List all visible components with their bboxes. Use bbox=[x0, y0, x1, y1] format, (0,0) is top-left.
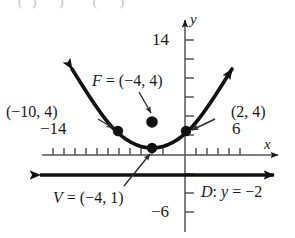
point-right-label: (2, 4) bbox=[231, 104, 266, 120]
focus-label: F = (−4, 4) bbox=[92, 73, 162, 89]
parabola-figure: ( ) ) ( ) y x 14 −6 −14 6 F = (−4, 4) (−… bbox=[0, 0, 295, 238]
focus-leader bbox=[139, 92, 151, 113]
x-axis-label: x bbox=[264, 137, 271, 152]
point-left-label: (−10, 4) bbox=[6, 104, 58, 120]
plotted-points bbox=[113, 116, 191, 153]
x-axis bbox=[42, 148, 278, 155]
y-tick-label-minus-6: −6 bbox=[151, 203, 169, 220]
leader-arrows bbox=[98, 92, 215, 186]
vertex-marker bbox=[147, 143, 157, 153]
point-left-marker bbox=[113, 126, 123, 136]
y-axis-label: y bbox=[190, 12, 197, 27]
x-tick-label-minus-14: −14 bbox=[40, 120, 67, 137]
x-tick-label-6: 6 bbox=[232, 120, 241, 137]
y-tick-label-14: 14 bbox=[152, 31, 169, 48]
vertex-leader bbox=[124, 154, 150, 186]
cropped-text-remnant: ( ) ) ( ) bbox=[18, 0, 124, 10]
directrix-label: D: y = −2 bbox=[201, 184, 262, 200]
vertex-label: V = (−4, 1) bbox=[53, 190, 123, 206]
point-right-marker bbox=[181, 126, 191, 136]
focus-marker bbox=[146, 116, 158, 128]
